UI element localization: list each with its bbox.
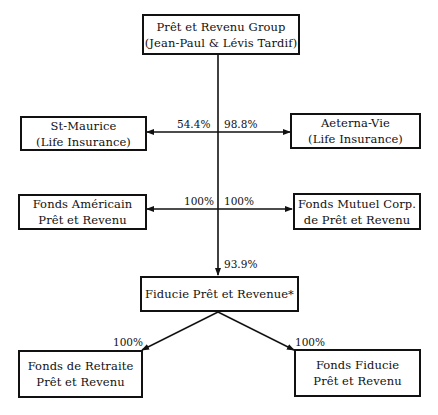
node-label: St-Maurice — [51, 118, 117, 134]
node-fiducie: Fiducie Prêt et Revenue* — [140, 276, 299, 312]
node-st-maurice: St-Maurice (Life Insurance) — [20, 116, 147, 151]
node-label: Fonds Fiducie — [316, 357, 399, 373]
node-fonds-americain: Fonds Américain Prêt et Revenu — [18, 194, 147, 230]
edge-label-fonds-americain: 100% — [184, 195, 214, 207]
node-label: Fiducie Prêt et Revenue* — [145, 286, 294, 302]
edge-label-st-maurice: 54.4% — [177, 118, 210, 130]
node-parent-group: Prêt et Revenu Group (Jean-Paul & Lévis … — [142, 14, 300, 55]
node-label: Aeterna-Vie — [321, 115, 390, 131]
node-sublabel: Prêt et Revenu — [313, 373, 401, 389]
node-fonds-retraite: Fonds de Retraite Prêt et Revenu — [18, 350, 143, 398]
edge-label-fonds-fiducie: 100% — [295, 336, 325, 348]
edge-label-fonds-mutuel: 100% — [224, 195, 254, 207]
node-fonds-fiducie: Fonds Fiducie Prêt et Revenu — [294, 349, 421, 397]
node-fonds-mutuel: Fonds Mutuel Corp. de Prêt et Revenu — [293, 193, 421, 230]
node-sublabel: (Life Insurance) — [308, 131, 403, 147]
edge-label-fonds-retraite: 100% — [113, 336, 143, 348]
edge-label-aeterna-vie: 98.8% — [224, 118, 257, 130]
edge-label-fiducie: 93.9% — [224, 258, 257, 270]
node-label: Fonds Mutuel Corp. — [298, 196, 416, 212]
node-sublabel: (Life Insurance) — [36, 134, 131, 150]
node-sublabel: Prêt et Revenu — [36, 374, 124, 390]
node-label: Prêt et Revenu Group — [156, 19, 285, 35]
node-label: Fonds de Retraite — [28, 358, 134, 374]
node-aeterna-vie: Aeterna-Vie (Life Insurance) — [290, 113, 421, 149]
node-sublabel: de Prêt et Revenu — [304, 212, 411, 228]
node-label: Fonds Américain — [33, 196, 133, 212]
node-sublabel: Prêt et Revenu — [38, 212, 126, 228]
node-sublabel: (Jean-Paul & Lévis Tardif) — [145, 35, 297, 51]
